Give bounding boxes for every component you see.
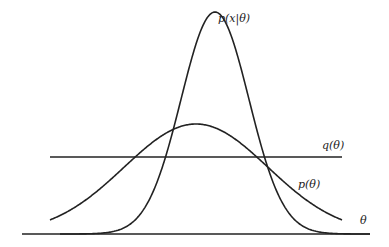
likelihood-label: p(x|θ): [218, 12, 250, 25]
likelihood-curve: [60, 12, 370, 234]
diagram-canvas: p(x|θ) q(θ) p(θ) θ: [0, 0, 389, 247]
curves-svg: [0, 0, 389, 247]
prior-label: p(θ): [298, 178, 320, 191]
prior-curve: [50, 124, 342, 220]
theta-axis-label: θ: [360, 214, 367, 227]
uniform-label: q(θ): [322, 139, 344, 152]
